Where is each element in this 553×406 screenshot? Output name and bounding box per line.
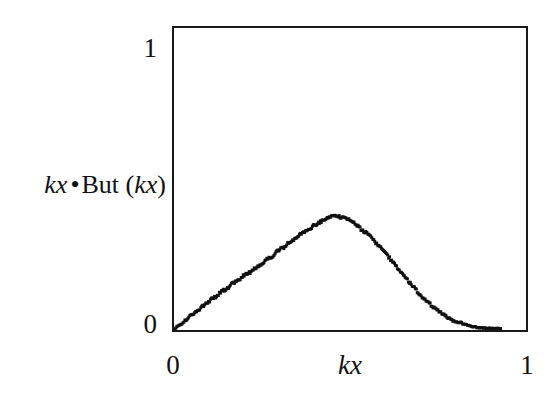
y-axis-tick-0: 0 bbox=[131, 311, 157, 338]
figure-container: kx•But (kx) 1 0 0 1 kx bbox=[0, 0, 553, 406]
x-axis-title: kx bbox=[300, 352, 400, 379]
x-axis-tick-0: 0 bbox=[160, 352, 186, 379]
y-axis-title-kx-2: kx bbox=[134, 170, 157, 199]
y-axis-title-paren: ) bbox=[157, 170, 166, 199]
y-axis-tick-1: 1 bbox=[131, 35, 157, 62]
bullet-icon: • bbox=[67, 170, 81, 199]
y-axis-title: kx•But (kx) bbox=[14, 172, 166, 198]
y-axis-title-but: But ( bbox=[82, 170, 135, 199]
data-series-scatter bbox=[174, 28, 526, 330]
y-axis-title-kx-1: kx bbox=[44, 170, 67, 199]
x-axis-tick-1: 1 bbox=[514, 352, 540, 379]
plot-frame bbox=[172, 26, 528, 332]
